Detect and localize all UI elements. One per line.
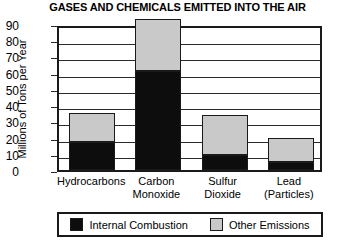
x-axis-category-label: CarbonMonoxide <box>123 175 189 201</box>
y-axis-tick-label: 40 <box>6 101 19 113</box>
y-axis-tick-label: 0 <box>12 166 19 178</box>
y-axis-tick-mark <box>51 58 57 59</box>
bar-segment <box>268 162 314 170</box>
bar-segment <box>69 113 115 142</box>
bar-segment <box>135 71 181 170</box>
x-axis-category-label-line: Dioxide <box>190 188 256 201</box>
chart-figure: GASES AND CHEMICALS EMITTED INTO THE AIR… <box>0 0 355 242</box>
y-axis-tick-mark <box>51 172 57 173</box>
legend-entry: Other Emissions <box>210 218 310 231</box>
x-axis-category-label: Lead(Particles) <box>256 175 322 201</box>
y-axis-tick-mark <box>51 75 57 76</box>
bar-group <box>202 24 248 170</box>
y-axis-tick-mark <box>51 91 57 92</box>
x-axis-category-label-line: Monoxide <box>123 188 189 201</box>
y-axis-tick-label: 70 <box>6 52 19 64</box>
bar-segment <box>202 155 248 170</box>
y-axis-tick-mark <box>51 42 57 43</box>
x-axis-category-label-line: Hydrocarbons <box>57 175 123 188</box>
y-axis-tick-label: 20 <box>6 134 19 146</box>
y-axis-tick-labels: 9080706050403020100 <box>0 0 55 242</box>
y-axis-tick-label: 80 <box>6 36 19 48</box>
legend-swatch-light <box>210 218 223 231</box>
x-axis-category-label-line: Carbon <box>123 175 189 188</box>
x-axis-category-labels: HydrocarbonsCarbonMonoxideSulfurDioxideL… <box>57 175 322 205</box>
x-axis-category-label-line: Sulfur <box>190 175 256 188</box>
bar-segment <box>202 115 248 156</box>
y-axis-tick-label: 50 <box>6 85 19 97</box>
legend-label: Internal Combustion <box>89 219 187 231</box>
bar-segment <box>69 142 115 170</box>
y-axis-tick-mark <box>51 26 57 27</box>
y-axis-tick-mark <box>51 107 57 108</box>
x-axis-category-label: Hydrocarbons <box>57 175 123 188</box>
bar-segment <box>268 138 314 162</box>
y-axis-tick-mark <box>51 156 57 157</box>
bar-group <box>69 24 115 170</box>
y-axis-tick-mark <box>51 140 57 141</box>
x-axis-category-label-line: Lead <box>256 175 322 188</box>
y-axis-tick-label: 60 <box>6 69 19 81</box>
x-axis-category-label: SulfurDioxide <box>190 175 256 201</box>
legend-entry: Internal Combustion <box>70 218 187 231</box>
legend-label: Other Emissions <box>229 219 310 231</box>
x-axis-category-label-line: (Particles) <box>256 188 322 201</box>
plot-area <box>57 26 322 172</box>
bar-group <box>268 24 314 170</box>
y-axis-tick-label: 90 <box>6 20 19 32</box>
y-axis-tick-mark <box>51 123 57 124</box>
legend-swatch-dark <box>70 218 83 231</box>
y-axis-tick-label: 30 <box>6 117 19 129</box>
chart-legend: Internal CombustionOther Emissions <box>57 212 323 237</box>
bar-group <box>135 24 181 170</box>
bar-segment <box>135 19 181 71</box>
y-axis-tick-label: 10 <box>6 150 19 162</box>
